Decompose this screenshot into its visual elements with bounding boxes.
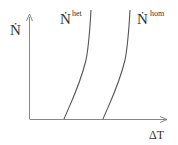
diagram-canvas: Ṅ Ṅ het Ṅ hom ΔT <box>0 0 178 145</box>
x-axis-label: ΔT <box>149 128 165 142</box>
curve-het-label: Ṅ <box>60 11 71 27</box>
curve-hom <box>103 10 130 119</box>
curve-hom-label: Ṅ <box>137 11 148 27</box>
curve-het-label-sup: het <box>72 9 83 18</box>
curve-hom-label-sup: hom <box>150 9 165 18</box>
nucleation-rate-diagram: Ṅ Ṅ het Ṅ hom ΔT <box>0 0 178 145</box>
y-axis-label: Ṅ <box>10 22 21 38</box>
